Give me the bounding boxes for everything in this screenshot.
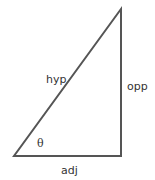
triangle-shape	[14, 9, 121, 156]
opposite-label: opp	[127, 80, 148, 93]
angle-theta-label: θ	[37, 137, 44, 150]
hypotenuse-label: hyp	[46, 73, 66, 86]
right-triangle-diagram: hyp opp adj θ	[0, 0, 155, 180]
adjacent-label: adj	[61, 164, 78, 177]
